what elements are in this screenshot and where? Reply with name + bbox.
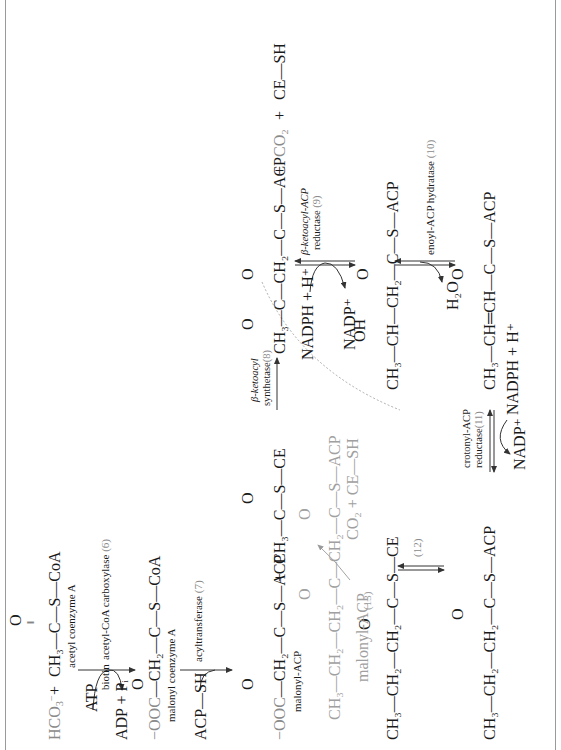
nadph-label: NADPH + H⁺: [505, 323, 521, 415]
hydroxybutyryl-acp: CH₃—CH—CH₂—C—S—ACP: [385, 181, 401, 390]
enzyme-label-10: enoyl-ACP hydratase (10): [425, 140, 436, 255]
plus-sign: +: [272, 166, 288, 175]
adp-pi-label: ADP + Pᵢ: [114, 680, 130, 740]
ce-sh-byproduct: CE—SH: [272, 43, 288, 100]
carbonyl-oxygen: O: [240, 268, 256, 280]
water-byproduct: H₂O: [445, 281, 461, 310]
hydroxyl-group: OH: [352, 319, 368, 342]
step-num-12: (12): [412, 539, 423, 557]
fatty-acid-synthesis-diagram: HCO3− + CH₃—C—S—CoA O ‖ acetyl coenzyme …: [0, 0, 561, 750]
cycle-byproducts: CO₂ + CE—SH: [345, 438, 361, 540]
acp-sh-label: ACP—SH: [193, 672, 209, 740]
malonyl-coa-label: malonyl coenzyme A: [166, 629, 177, 722]
atp-label: ATP: [84, 684, 100, 712]
carbonyl-oxygen: O: [450, 268, 466, 280]
acetyl-coa-label: acetyl coenzyme A: [66, 584, 77, 668]
butyryl-ce: CH₃—CH₂—CH₂—C—S—CE: [385, 537, 401, 740]
nadp-label: NADP⁺: [512, 418, 528, 470]
acetyl-coa-formula: CH₃—C—S—CoA: [47, 551, 63, 677]
co2-byproduct: CO₂: [272, 129, 288, 157]
enzyme-label-8-line1: β-ketoacyl: [250, 358, 261, 402]
enzyme-label-9-line2: reductase (9): [312, 195, 323, 250]
malonyl-acp-label: malonyl-ACP: [292, 651, 303, 712]
step-num-13: (13): [362, 592, 373, 610]
enzyme-label-11-line1: crotonyl-ACP: [462, 409, 473, 468]
enzyme-label-6: acetyl-CoA carboxylase (6): [100, 539, 111, 660]
carbonyl-oxygen: O: [355, 268, 371, 280]
carbonyl-oxygen: O: [130, 678, 146, 690]
carbonyl-oxygen: O: [8, 614, 24, 626]
enzyme-label-7: acyltransferase (7): [193, 580, 204, 662]
carbonyl-oxygen: O: [240, 678, 256, 690]
acetyl-ce: CH₃—C—S—CE: [272, 448, 288, 564]
carbonyl-oxygen: O: [240, 492, 256, 504]
nadph-label: NADPH + H⁺: [300, 268, 316, 360]
biotin-label: biotin: [100, 664, 111, 690]
plus-sign: +: [272, 573, 288, 582]
carbonyl-oxygen: O: [450, 608, 466, 620]
cycle-ketoacyl-acp: CH₃—CH₂—CH₂—C—CH₂—C—S—ACP: [327, 435, 343, 720]
plus-sign: +: [47, 686, 63, 695]
bicarbonate: HCO3−: [47, 695, 63, 740]
acetoacetyl-acp: CH₃—C—CH₂—C—S—ACP: [272, 157, 288, 354]
enzyme-label-9-line1: β-ketoacyl-ACP: [300, 188, 311, 255]
carbonyl-oxygen: O: [297, 508, 313, 520]
enzyme-label-11-line2: reductase(11): [474, 411, 485, 468]
double-bond-mark: ‖: [25, 621, 36, 624]
enzyme-label-8-line2: synthetase(8): [262, 350, 273, 406]
malonyl-acp: −OOC—CH₂—C—S—ACP: [272, 555, 288, 740]
crotonyl-acp: CH₃—CH═CH—C—S—ACP: [482, 192, 498, 390]
butyryl-acp: CH₃—CH₂—CH₂—C—S—ACP: [482, 526, 498, 740]
carbonyl-oxygen: O: [297, 588, 313, 600]
plus-sign: +: [272, 111, 288, 120]
figure-page: HCO3− + CH₃—C—S—CoA O ‖ acetyl coenzyme …: [0, 0, 561, 750]
carbonyl-oxygen: O: [240, 318, 256, 330]
malonyl-coa: −OOC—CH₂—C—S—CoA: [147, 556, 163, 740]
